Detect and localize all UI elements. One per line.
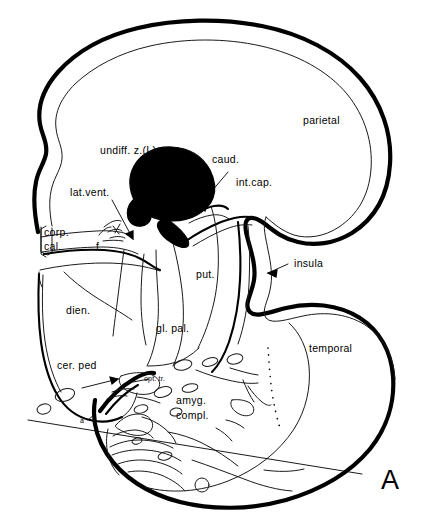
label-undiff-z: undiff. z.(L) (100, 144, 156, 156)
label-amyg-line1: amyg. (176, 394, 206, 406)
label-corp-cal-line1: corp. (44, 226, 69, 238)
label-int-cap: int.cap. (236, 176, 272, 188)
label-gl-pal: gl. pal. (156, 322, 189, 334)
label-opt-tr: opt. tr. (144, 375, 165, 383)
label-parietal: parietal (303, 114, 340, 126)
label-corp-cal-line2: cal. (44, 240, 62, 252)
label-fornix: f. (96, 240, 102, 252)
label-caud: caud. (212, 153, 239, 165)
label-dien: dien. (66, 304, 90, 316)
label-a-prime: a' (80, 417, 86, 424)
label-temporal: temporal (309, 342, 352, 354)
label-insula: insula (294, 257, 323, 269)
figure-root: undiff. z.(L) caud. int.cap. lat.vent. c… (0, 0, 426, 518)
label-cer-ped: cer. ped (57, 359, 97, 371)
brain-section-drawing: undiff. z.(L) caud. int.cap. lat.vent. c… (0, 0, 426, 518)
panel-letter: A (381, 465, 399, 495)
label-put: put. (196, 268, 215, 280)
label-amyg-line2: compl. (176, 409, 209, 421)
label-lat-vent: lat.vent. (70, 186, 109, 198)
